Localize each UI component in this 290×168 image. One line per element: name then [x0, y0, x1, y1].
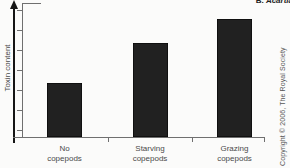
- panel-letter: B.: [256, 0, 264, 5]
- panel-species: Acartia: [266, 0, 290, 5]
- x-axis-line: [13, 137, 264, 138]
- y-tick: [17, 130, 22, 131]
- bar-no-copepods: [47, 83, 82, 137]
- x-tick: [108, 137, 109, 142]
- bar-starving-copepods: [133, 43, 168, 137]
- y-axis-line: [22, 3, 23, 137]
- copyright-text: Copyright © 2006, The Royal Society: [279, 16, 289, 166]
- bar-grazing-copepods: [217, 19, 252, 137]
- x-tick: [264, 137, 265, 142]
- y-tick: [17, 30, 22, 31]
- x-label-starving-copepods: Starvingcopepods: [110, 144, 190, 163]
- x-label-no-copepods: Nocopepods: [25, 144, 105, 163]
- x-label-grazing-copepods: Grazingcopepods: [195, 144, 275, 163]
- y-tick: [17, 90, 22, 91]
- y-tick: [17, 10, 22, 11]
- figure-panel: Toxin content NocopepodsStarvingcopepods…: [0, 0, 290, 168]
- y-tick: [17, 70, 22, 71]
- y-axis-arrow: [13, 7, 15, 143]
- y-axis-top-cap: [22, 3, 41, 4]
- y-tick: [17, 50, 22, 51]
- arrow-up-icon: [10, 0, 18, 9]
- panel-label: B. Acartia: [256, 0, 290, 5]
- x-tick: [192, 137, 193, 142]
- y-tick: [17, 110, 22, 111]
